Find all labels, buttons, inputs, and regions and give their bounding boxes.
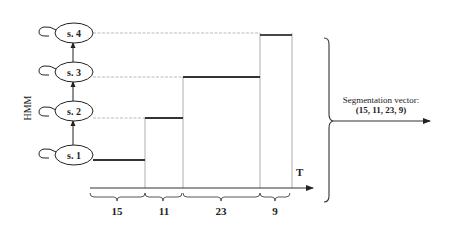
segmentation-vector-value: (15, 11, 23, 9)	[356, 105, 407, 115]
segment-levels	[93, 35, 292, 160]
time-axis-label: T	[296, 166, 304, 178]
state-label: s. 4	[67, 28, 81, 39]
state-label: s. 1	[67, 150, 81, 161]
self-loop-s3	[39, 66, 56, 75]
self-loop-s2	[39, 107, 56, 116]
brace-segment-1	[90, 193, 145, 201]
segment-boundaries	[145, 33, 292, 188]
level-lines	[93, 33, 260, 118]
hmm-label: HMM	[22, 95, 33, 120]
brace-segment-4	[260, 193, 290, 201]
self-loops	[39, 27, 56, 158]
segment-braces	[90, 193, 290, 201]
brace-segment-2	[145, 193, 182, 201]
self-loop-s4	[39, 27, 56, 36]
segment-label-3: 23	[216, 205, 228, 217]
state-label: s. 3	[67, 67, 81, 78]
state-s2: s. 2	[55, 101, 93, 121]
brace-segment-3	[183, 193, 260, 201]
state-s4: s. 4	[55, 23, 93, 43]
hmm-segmentation-diagram: HMM T 15 11 23 9	[0, 0, 458, 235]
output-brace	[324, 38, 333, 202]
segment-label-1: 15	[112, 205, 124, 217]
state-s3: s. 3	[55, 62, 93, 82]
self-loop-s1	[39, 149, 56, 158]
state-s1: s. 1	[55, 145, 93, 165]
segment-label-4: 9	[272, 205, 278, 217]
segment-label-2: 11	[159, 205, 169, 217]
state-label: s. 2	[67, 106, 81, 117]
segmentation-vector-title: Segmentation vector:	[343, 95, 420, 105]
